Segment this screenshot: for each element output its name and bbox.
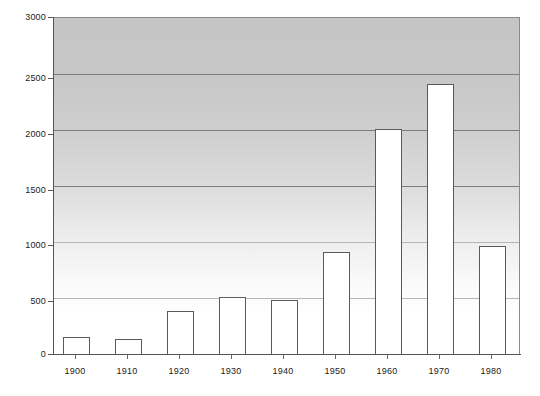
y-axis-line xyxy=(53,17,54,355)
y-axis-tick-label-3000-wrap: 3000 xyxy=(0,12,46,22)
y-axis-tick-label-2500-wrap: 2500 xyxy=(0,73,46,83)
x-tick-mark-1930 xyxy=(231,355,232,359)
y-tick-mark-1500 xyxy=(48,190,53,191)
y-axis-tick-label-2000: 2000 xyxy=(2,129,46,139)
y-axis-tick-label-3000: 3000 xyxy=(2,12,46,22)
x-tick-mark-1950 xyxy=(335,355,336,359)
y-tick-mark-3000 xyxy=(48,17,53,18)
bars-layer xyxy=(54,18,519,354)
bar-1920 xyxy=(167,311,194,354)
x-axis-tick-label-1930: 1930 xyxy=(211,366,251,376)
plot-area xyxy=(53,17,520,355)
bar-1960 xyxy=(375,129,402,354)
x-axis-tick-label-1950: 1950 xyxy=(315,366,355,376)
x-axis-tick-label-1940: 1940 xyxy=(263,366,303,376)
y-tick-mark-0 xyxy=(48,354,53,355)
bar-1950 xyxy=(323,252,350,354)
y-axis-tick-label-0: 0 xyxy=(2,349,46,359)
x-tick-mark-1900 xyxy=(75,355,76,359)
x-tick-mark-1960 xyxy=(387,355,388,359)
x-axis-tick-label-1960: 1960 xyxy=(367,366,407,376)
y-tick-mark-2000 xyxy=(48,134,53,135)
x-axis-tick-label-1970: 1970 xyxy=(419,366,459,376)
bar-chart: 3000 2500 2000 1500 1000 500 0 1900 1910… xyxy=(0,0,540,396)
x-tick-mark-1980 xyxy=(491,355,492,359)
bar-1980 xyxy=(479,246,506,354)
bar-1940 xyxy=(271,300,298,354)
bar-1970 xyxy=(427,84,454,354)
bar-1930 xyxy=(219,297,246,354)
y-axis-tick-label-500-wrap: 500 xyxy=(0,296,46,306)
x-axis-tick-label-1980: 1980 xyxy=(471,366,511,376)
x-tick-mark-1920 xyxy=(179,355,180,359)
y-tick-mark-2500 xyxy=(48,78,53,79)
y-axis-tick-label-500: 500 xyxy=(2,296,46,306)
y-axis-tick-label-0-wrap: 0 xyxy=(0,349,46,359)
y-tick-mark-500 xyxy=(48,301,53,302)
x-tick-mark-1910 xyxy=(127,355,128,359)
y-axis-tick-label-2500: 2500 xyxy=(2,73,46,83)
x-axis-line xyxy=(53,354,521,355)
y-axis-tick-label-1500-wrap: 1500 xyxy=(0,185,46,195)
x-axis-tick-label-1920: 1920 xyxy=(159,366,199,376)
x-axis-tick-label-1910: 1910 xyxy=(107,366,147,376)
y-axis-tick-label-1500: 1500 xyxy=(2,185,46,195)
bar-1910 xyxy=(115,339,142,354)
bar-1900 xyxy=(63,337,90,354)
y-axis-tick-label-1000: 1000 xyxy=(2,240,46,250)
x-axis-tick-label-1900: 1900 xyxy=(55,366,95,376)
x-tick-mark-1940 xyxy=(283,355,284,359)
y-tick-mark-1000 xyxy=(48,245,53,246)
y-axis-tick-label-2000-wrap: 2000 xyxy=(0,129,46,139)
y-axis-tick-label-1000-wrap: 1000 xyxy=(0,240,46,250)
x-tick-mark-1970 xyxy=(439,355,440,359)
